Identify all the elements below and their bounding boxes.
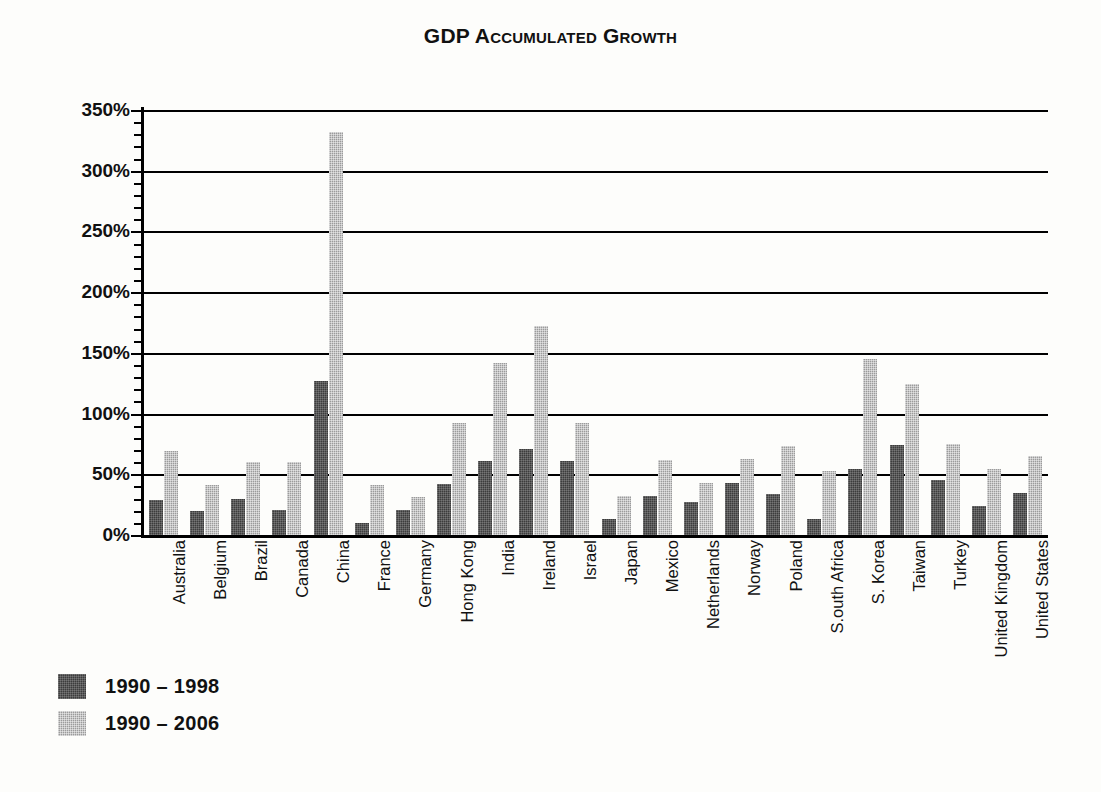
bar xyxy=(602,519,616,535)
bar xyxy=(437,484,451,535)
x-axis-baseline xyxy=(143,535,1048,538)
x-axis-category-label: China xyxy=(334,540,353,583)
bar xyxy=(725,483,739,535)
bar xyxy=(560,461,574,535)
bar-group xyxy=(272,110,301,535)
bar-group xyxy=(643,110,672,535)
x-axis-category-label: Japan xyxy=(622,540,641,585)
bar xyxy=(329,132,343,535)
bar-group xyxy=(848,110,877,535)
x-axis-category-label: United States xyxy=(1033,540,1052,639)
bar-group xyxy=(478,110,507,535)
bar xyxy=(931,480,945,535)
bar xyxy=(807,519,821,535)
bar xyxy=(781,446,795,535)
bar xyxy=(164,451,178,535)
x-axis-category-label: India xyxy=(499,540,518,576)
bar xyxy=(370,485,384,535)
bar xyxy=(643,496,657,535)
y-axis-tick-label: 0% xyxy=(50,524,130,546)
legend-swatch xyxy=(58,711,86,736)
bar xyxy=(946,444,960,535)
y-axis-tick-label: 300% xyxy=(50,160,130,182)
bar xyxy=(452,423,466,535)
bar-group xyxy=(890,110,919,535)
bar-group xyxy=(560,110,589,535)
x-axis-category-label: Ireland xyxy=(540,540,559,590)
bar-group xyxy=(931,110,960,535)
bar xyxy=(658,460,672,535)
bar xyxy=(534,326,548,535)
bar-group xyxy=(190,110,219,535)
x-axis-category-label: Canada xyxy=(293,540,312,598)
bar xyxy=(287,462,301,535)
bar xyxy=(519,449,533,535)
bar xyxy=(1013,493,1027,536)
bar xyxy=(149,500,163,535)
x-axis-category-label: United Kingdom xyxy=(992,540,1011,657)
bar-group xyxy=(725,110,754,535)
bar xyxy=(1028,456,1042,535)
bar xyxy=(396,510,410,536)
bar xyxy=(863,359,877,535)
x-axis-category-label: Mexico xyxy=(663,540,682,592)
bar xyxy=(740,459,754,536)
x-axis-category-labels: AustraliaBelgiumBrazilCanadaChinaFranceG… xyxy=(143,540,1048,680)
bar xyxy=(190,511,204,535)
bar-group xyxy=(972,110,1001,535)
legend-item: 1990 – 2006 xyxy=(58,705,220,742)
bar xyxy=(987,469,1001,535)
bar xyxy=(617,496,631,535)
bar xyxy=(314,381,328,535)
y-axis-tick-label: 50% xyxy=(50,463,130,485)
bar-group xyxy=(602,110,631,535)
bar-group xyxy=(807,110,836,535)
bar xyxy=(205,485,219,535)
x-axis-category-label: Poland xyxy=(787,540,806,591)
bar xyxy=(972,506,986,535)
bar-group xyxy=(355,110,384,535)
bar-group xyxy=(1013,110,1042,535)
x-axis-category-label: Germany xyxy=(416,540,435,608)
x-axis-category-label: Taiwan xyxy=(910,540,929,591)
bar-group xyxy=(231,110,260,535)
bar xyxy=(848,469,862,535)
y-axis-tick-label: 200% xyxy=(50,281,130,303)
bar xyxy=(575,423,589,535)
y-axis-tick-label: 250% xyxy=(50,220,130,242)
bar-group xyxy=(684,110,713,535)
chart-legend: 1990 – 19981990 – 2006 xyxy=(58,668,220,742)
x-axis-category-label: Norway xyxy=(745,540,764,596)
bar xyxy=(411,497,425,535)
x-axis-category-label: Hong Kong xyxy=(458,540,477,623)
x-axis-category-label: Brazil xyxy=(252,540,271,581)
x-axis-category-label: Belgium xyxy=(211,540,230,600)
legend-swatch xyxy=(58,674,86,699)
bar-group xyxy=(437,110,466,535)
bar xyxy=(355,523,369,535)
bar-group xyxy=(149,110,178,535)
bar xyxy=(822,471,836,535)
legend-item: 1990 – 1998 xyxy=(58,668,220,705)
bar xyxy=(905,384,919,535)
bar xyxy=(890,445,904,535)
bar-group xyxy=(314,110,343,535)
x-axis-category-label: Turkey xyxy=(951,540,970,590)
bar-group xyxy=(766,110,795,535)
bar xyxy=(766,494,780,535)
plot-area xyxy=(143,110,1048,535)
chart-title: GDP Accumulated Growth xyxy=(0,24,1101,48)
bar xyxy=(684,502,698,535)
x-axis-category-label: Australia xyxy=(170,540,189,604)
x-axis-category-label: France xyxy=(375,540,394,591)
bar xyxy=(246,462,260,535)
bar-group xyxy=(396,110,425,535)
bar-group xyxy=(519,110,548,535)
bar xyxy=(272,510,286,536)
x-axis-category-label: Netherlands xyxy=(704,540,723,629)
legend-label: 1990 – 1998 xyxy=(105,675,220,698)
y-axis-tick-label: 100% xyxy=(50,403,130,425)
bar xyxy=(699,483,713,535)
x-axis-category-label: Israel xyxy=(581,540,600,580)
x-axis-category-label: S.outh Africa xyxy=(828,540,847,634)
